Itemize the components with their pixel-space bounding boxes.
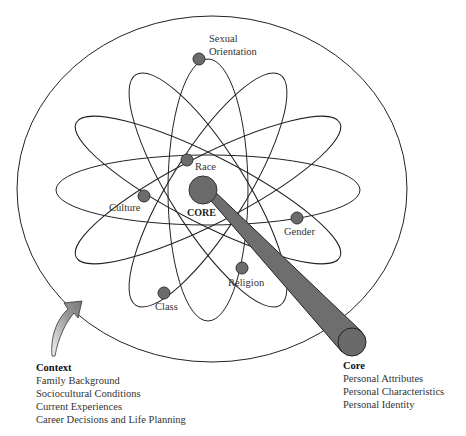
node-sexual-orientation [193, 53, 205, 65]
context-legend: Context Family Background Sociocultural … [36, 361, 186, 426]
label-culture: Culture [109, 201, 141, 214]
label-religion: Religion [228, 276, 264, 289]
label-class: Class [155, 300, 178, 313]
context-title: Context [36, 361, 186, 374]
label-text: Religion [228, 277, 264, 288]
label-text: Culture [109, 202, 141, 213]
label-line: Orientation [209, 45, 257, 58]
label-text: CORE [187, 207, 216, 218]
core-legend: Core Personal Attributes Personal Charac… [343, 359, 444, 411]
label-gender: Gender [284, 225, 315, 238]
identity-atom-diagram: Sexual Orientation Race Culture CORE Gen… [0, 0, 466, 436]
node-religion [236, 262, 248, 274]
label-text: Race [195, 161, 216, 172]
label-race: Race [195, 160, 216, 173]
label-text: Class [155, 301, 178, 312]
core-node [189, 176, 217, 204]
core-title: Core [343, 359, 444, 372]
core-item: Personal Identity [343, 398, 444, 411]
label-text: Gender [284, 226, 315, 237]
node-gender [291, 212, 303, 224]
context-item: Current Experiences [36, 400, 186, 413]
context-item: Family Background [36, 374, 186, 387]
node-class [158, 287, 170, 299]
core-item: Personal Attributes [343, 372, 444, 385]
label-core: CORE [187, 206, 216, 219]
core-item: Personal Characteristics [343, 385, 444, 398]
core-stick [206, 187, 366, 356]
label-line: Sexual [209, 32, 257, 45]
label-sexual-orientation: Sexual Orientation [209, 32, 257, 58]
context-item: Sociocultural Conditions [36, 387, 186, 400]
context-arrow-icon [52, 301, 82, 356]
context-item: Career Decisions and Life Planning [36, 413, 186, 426]
node-race [181, 154, 193, 166]
